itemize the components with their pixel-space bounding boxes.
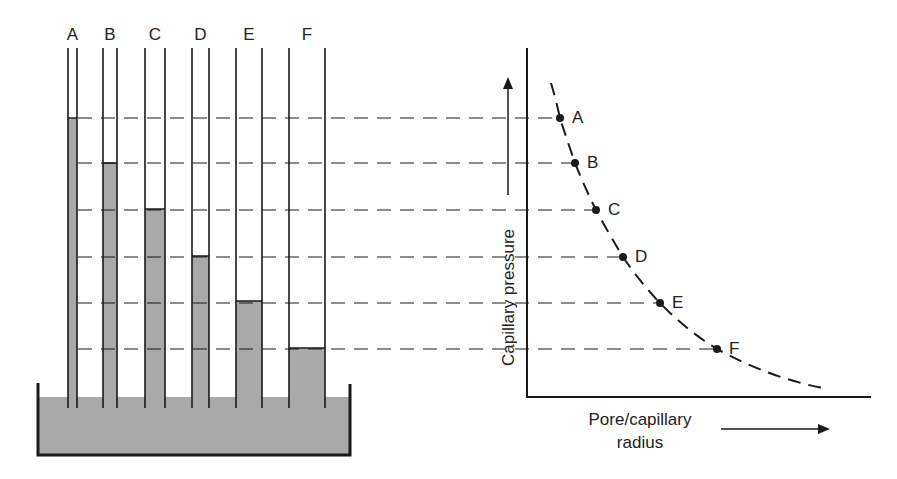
tube-liquid-column	[68, 118, 77, 408]
capillary-tubes: ABCDEF	[67, 25, 325, 408]
capillary-pressure-chart: Capillary pressure Pore/capillary radius…	[499, 48, 871, 452]
tube-label: E	[243, 25, 254, 44]
tube-label: B	[104, 25, 115, 44]
x-axis-label-line2: radius	[617, 433, 663, 452]
tube-label: A	[67, 25, 79, 44]
point-e	[656, 299, 664, 307]
point-label: A	[572, 108, 584, 127]
tube-d: D	[192, 25, 209, 408]
tube-liquid-column	[145, 209, 165, 408]
tube-label: C	[149, 25, 161, 44]
x-axis-arrow-icon	[721, 424, 830, 434]
tube-b: B	[103, 25, 117, 408]
tube-e: E	[236, 25, 262, 408]
tube-f: F	[289, 25, 325, 408]
point-d	[619, 253, 627, 261]
point-label: E	[672, 293, 683, 312]
tube-label: D	[194, 25, 206, 44]
curve-points: ABCDEF	[556, 108, 739, 358]
capillary-diagram: ABCDEF Capillary pressure Pore/capillary…	[0, 0, 897, 479]
pressure-curve	[551, 83, 823, 388]
tube-liquid-column	[192, 256, 209, 408]
point-label: C	[608, 200, 620, 219]
tube-liquid-column	[236, 301, 262, 408]
tube-liquid-column	[103, 163, 117, 408]
point-label: D	[635, 247, 647, 266]
point-label: B	[587, 153, 598, 172]
dashed-guide-lines	[78, 118, 713, 349]
tube-c: C	[145, 25, 165, 408]
tube-a: A	[67, 25, 79, 408]
point-f	[713, 345, 721, 353]
point-c	[592, 206, 600, 214]
x-axis-label-line1: Pore/capillary	[589, 410, 692, 429]
tube-liquid-column	[289, 348, 325, 408]
point-b	[571, 159, 579, 167]
y-axis-arrow-icon	[503, 77, 513, 195]
tube-label: F	[302, 25, 312, 44]
y-axis-label: Capillary pressure	[499, 229, 518, 366]
point-label: F	[729, 339, 739, 358]
point-a	[556, 114, 564, 122]
